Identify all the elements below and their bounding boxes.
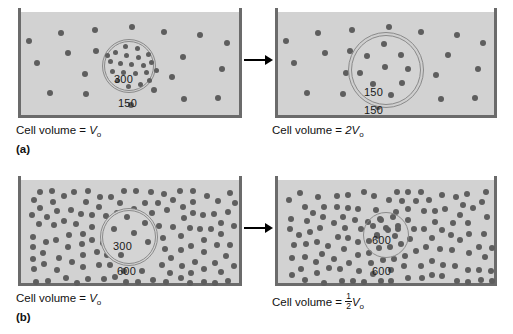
panel-b-right-beaker: 600 600 xyxy=(275,176,497,286)
caption-b-right-fraction: 12 xyxy=(345,292,352,311)
panel-a-right-beaker: 150 150 xyxy=(275,8,497,118)
solute-particle xyxy=(302,254,308,260)
solute-particle xyxy=(159,262,165,268)
solute-particle xyxy=(457,237,463,243)
solute-particle xyxy=(283,38,289,44)
solute-particle xyxy=(177,188,183,194)
caption-a-right-prefix: Cell volume = xyxy=(272,124,345,136)
solute-particle xyxy=(439,227,445,233)
solute-particle xyxy=(418,29,424,35)
solute-particle xyxy=(178,233,184,239)
panel-b-left-beaker: 300 600 xyxy=(18,176,242,286)
solute-particle xyxy=(302,277,308,283)
solute-particle xyxy=(334,204,340,210)
solute-particle xyxy=(331,220,337,226)
arrow-shaft xyxy=(244,59,266,61)
solute-particle xyxy=(148,189,154,195)
cell-solute-particle xyxy=(357,70,363,76)
transition-arrow-a xyxy=(244,55,274,65)
solute-particle xyxy=(439,192,445,198)
solute-particle xyxy=(394,189,400,195)
solute-particle xyxy=(349,27,355,33)
solute-particle xyxy=(421,208,427,214)
solute-particle xyxy=(208,226,214,232)
cell-solute-particle xyxy=(133,71,138,76)
solute-particle xyxy=(402,253,408,259)
cell-solute-particle xyxy=(147,78,152,83)
solute-particle xyxy=(161,29,167,35)
solute-particle xyxy=(83,199,89,205)
cell-solute-particle xyxy=(118,61,123,66)
cell-solute-particle xyxy=(111,226,117,232)
cell-solute-particle xyxy=(124,214,130,220)
solute-particle xyxy=(478,277,484,283)
solute-particle xyxy=(50,199,56,205)
inside-concentration-label: 300 xyxy=(113,240,132,252)
beaker-wall-left xyxy=(275,8,278,118)
outside-concentration-label: 600 xyxy=(117,265,136,277)
caption-b-right-sub: o xyxy=(360,302,364,311)
solute-particle xyxy=(304,90,310,96)
beaker-wall-right xyxy=(239,8,242,118)
solute-particle xyxy=(133,188,139,194)
solute-particle xyxy=(452,263,458,269)
solute-particle xyxy=(432,219,438,225)
solute-particle xyxy=(472,95,478,101)
solute-particle xyxy=(179,263,185,269)
solute-particle xyxy=(489,278,495,284)
outside-concentration-label: 600 xyxy=(372,265,391,277)
cell-solute-particle xyxy=(113,50,118,55)
caption-a-right-sub: o xyxy=(359,130,363,139)
solute-particle xyxy=(215,198,221,204)
solute-particle xyxy=(488,268,494,274)
cell-solute-particle xyxy=(399,80,405,86)
caption-b-right: Cell volume = 12Vo xyxy=(272,292,364,311)
cell-solute-particle xyxy=(364,53,370,59)
solute-particle xyxy=(291,60,297,66)
cell-solute-particle xyxy=(136,55,141,60)
solute-particle xyxy=(321,280,327,286)
beaker-floor xyxy=(275,115,497,118)
caption-a-left-prefix: Cell volume = xyxy=(16,124,89,136)
solute-particle xyxy=(47,90,53,96)
solute-particle xyxy=(58,30,64,36)
solute-particle xyxy=(155,200,161,206)
solute-particle xyxy=(187,225,193,231)
arrow-head xyxy=(265,55,273,65)
solute-particle xyxy=(93,48,99,54)
solute-particle xyxy=(30,234,36,240)
beaker-wall-left xyxy=(18,176,21,286)
solute-particle xyxy=(345,205,351,211)
solute-particle xyxy=(322,50,328,56)
solute-particle xyxy=(78,211,84,217)
solute-particle xyxy=(51,222,57,228)
cell-solute-particle xyxy=(108,59,113,64)
solute-particle xyxy=(192,259,198,265)
solute-particle xyxy=(97,194,103,200)
solute-particle xyxy=(201,249,207,255)
solute-particle xyxy=(82,71,88,77)
solute-particle xyxy=(180,204,186,210)
cell-solute-particle xyxy=(382,64,388,70)
solute-particle xyxy=(92,27,98,33)
caption-b-left-prefix: Cell volume = xyxy=(16,292,89,304)
caption-a-left-sub: o xyxy=(97,130,101,139)
solute-particle xyxy=(190,199,196,205)
cell-solute-particle xyxy=(398,52,404,58)
solute-particle xyxy=(386,24,392,30)
solute-particle xyxy=(307,229,313,235)
cell-solute-particle xyxy=(135,46,140,51)
solute-particle xyxy=(218,269,224,275)
solute-particle xyxy=(187,280,193,286)
solute-particle xyxy=(135,279,141,285)
cell-solute-particle xyxy=(154,68,159,73)
solute-particle xyxy=(442,206,448,212)
solute-particle xyxy=(117,200,123,206)
panel-letter-a: (a) xyxy=(16,143,30,155)
solute-particle xyxy=(167,270,173,276)
beaker-wall-left xyxy=(18,8,21,118)
caption-a-left: Cell volume = Vo xyxy=(16,124,101,139)
solute-particle xyxy=(225,209,231,215)
beaker-floor xyxy=(18,115,242,118)
solute-particle xyxy=(302,204,308,210)
